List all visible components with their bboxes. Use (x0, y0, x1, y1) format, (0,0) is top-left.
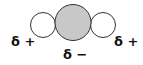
center-charge-label: δ − (63, 48, 87, 61)
right-atom (91, 13, 116, 38)
center-atom (55, 5, 91, 41)
left-charge-label: δ + (11, 35, 35, 48)
right-charge-label: δ + (114, 35, 138, 48)
